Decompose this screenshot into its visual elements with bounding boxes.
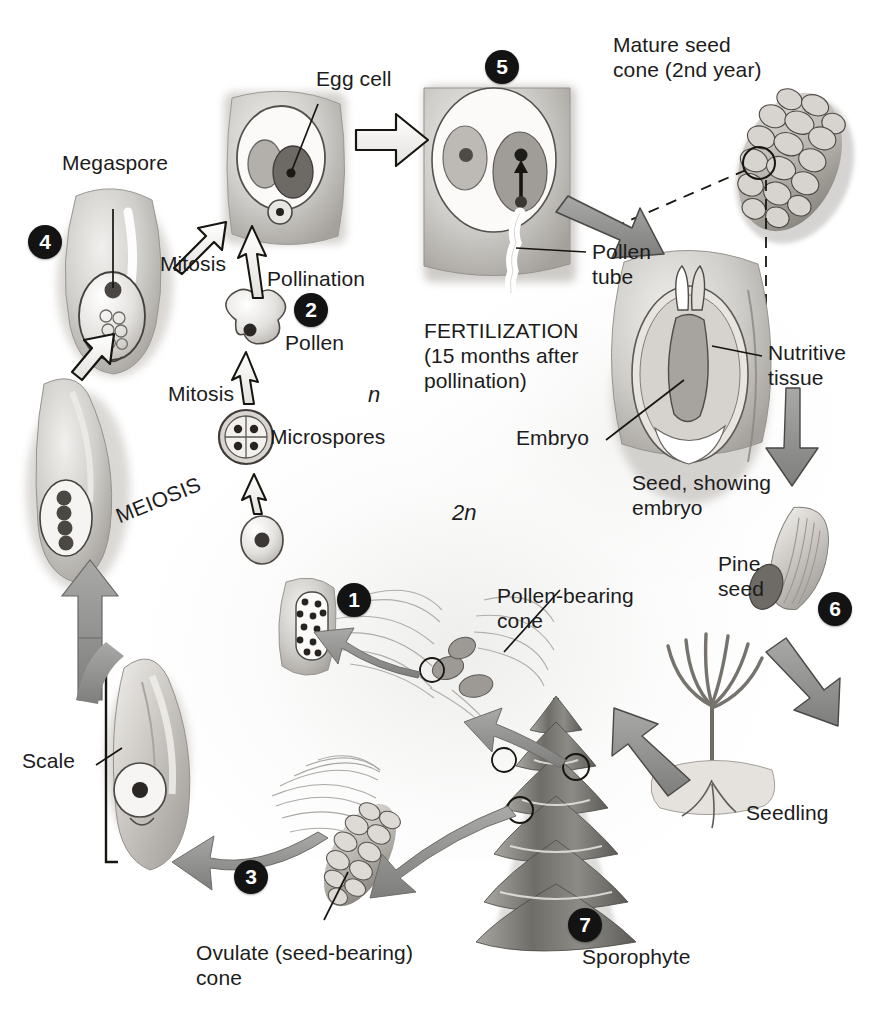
pollen-grain-illustration [226,289,286,343]
pine-life-cycle-figure: 1 2 3 4 5 6 7 Megaspore Egg cell Mature … [0,0,877,1013]
label-sporophyte: Sporophyte [582,944,690,969]
label-embryo: Embryo [516,425,589,450]
ovule-with-megaspore-illustration [57,189,173,377]
ploidy-label-haploid: n [368,382,380,407]
label-ovulate-cone: Ovulate (seed-bearing) cone [196,940,413,990]
label-nutritive-tissue: Nutritive tissue [768,340,846,390]
label-fertilization: FERTILIZATION (15 months after pollinati… [424,318,579,393]
label-megaspore: Megaspore [62,150,168,175]
ploidy-label-diploid: 2n [452,500,477,525]
ovule-with-egg-cell-illustration [224,91,346,244]
step-number-7: 7 [568,908,602,942]
label-egg-cell: Egg cell [316,66,392,91]
label-mitosis-lower: Mitosis [168,381,234,406]
step-number-2: 2 [294,293,328,327]
megasporangium-four-cells-illustration [26,379,130,590]
label-pine-seed: Pine seed [718,551,764,601]
label-pollen: Pollen [285,330,344,355]
step-number-6: 6 [818,592,852,626]
label-seed-showing-embryo: Seed, showing embryo [632,470,771,520]
arrow-scale-to-megasporangium-tail [76,642,124,704]
label-scale: Scale [22,748,75,773]
label-mitosis-upper: Mitosis [160,251,226,276]
arrow-pollination [238,226,266,298]
label-seedling: Seedling [746,800,829,825]
paper-texture-wash-2 [420,250,850,580]
arrow-to-fertilization [356,114,428,166]
arrow-scale-to-megasporangium [60,560,118,700]
step-number-5: 5 [485,50,519,84]
label-pollen-bearing-cone: Pollen-bearing cone [497,583,634,633]
label-mature-seed-cone: Mature seed cone (2nd year) [613,32,762,82]
label-microspores: Microspores [270,424,385,449]
step-number-1: 1 [337,583,371,617]
label-pollen-tube: Pollen tube [592,239,651,289]
arrow-meiosis-to-megaspore [72,334,114,380]
label-pollination: Pollination [267,266,365,291]
step-number-4: 4 [28,225,62,259]
step-number-3: 3 [234,860,268,894]
